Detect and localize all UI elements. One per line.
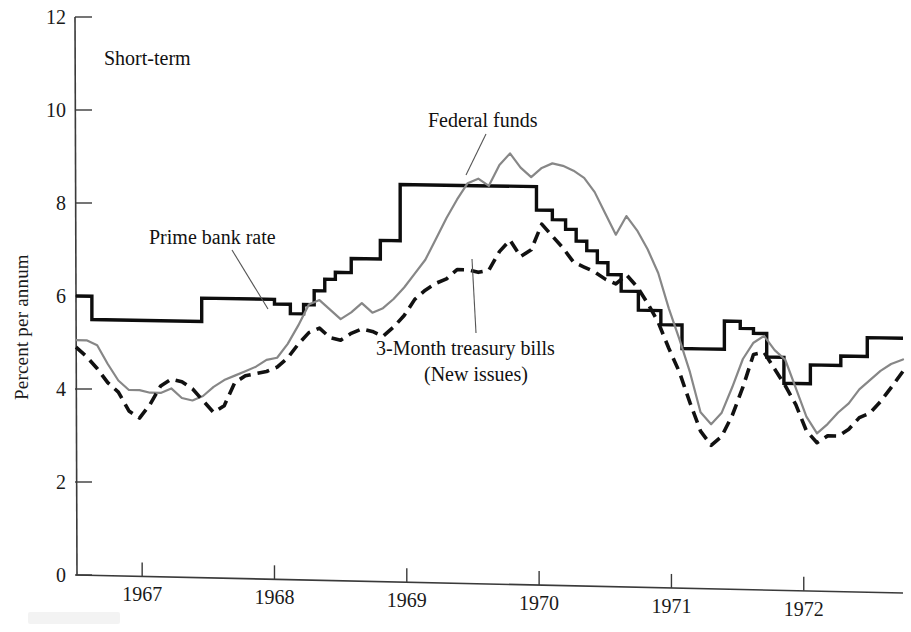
panel-label: Short-term bbox=[104, 47, 191, 69]
x-tick-label: 1972 bbox=[784, 598, 824, 620]
series-federal-funds bbox=[76, 153, 903, 433]
y-tick-label: 8 bbox=[56, 192, 66, 214]
x-tick-label: 1968 bbox=[254, 586, 294, 608]
y-tick-label: 10 bbox=[46, 99, 66, 121]
x-tick-label: 1970 bbox=[519, 592, 559, 614]
y-tick-label: 6 bbox=[56, 285, 66, 307]
chart-series-group bbox=[76, 153, 903, 445]
y-tick-label: 12 bbox=[46, 6, 66, 28]
annotation-federal-funds: Federal funds bbox=[428, 109, 538, 131]
x-tick-label: 1967 bbox=[122, 583, 162, 605]
y-tick-label: 0 bbox=[56, 564, 66, 586]
annotation-treasury-bills-line2: (New issues) bbox=[424, 363, 528, 386]
x-axis-ticks: 196719681969197019711972 bbox=[122, 562, 824, 619]
y-tick-label: 4 bbox=[56, 378, 66, 400]
page-artifact bbox=[28, 612, 120, 624]
series-treasury-bills bbox=[76, 224, 903, 445]
x-tick-label: 1969 bbox=[387, 589, 427, 611]
fedfunds-leader-line bbox=[466, 134, 486, 175]
x-tick-label: 1971 bbox=[651, 595, 691, 617]
interest-rate-line-chart: 024681012 196719681969197019711972 Perce… bbox=[0, 0, 911, 632]
chart-axes bbox=[75, 17, 903, 593]
annotation-prime-bank-rate: Prime bank rate bbox=[149, 226, 276, 248]
annotation-treasury-bills-line1: 3-Month treasury bills bbox=[376, 337, 555, 360]
chart-figure: 024681012 196719681969197019711972 Perce… bbox=[0, 0, 911, 632]
x-axis-line bbox=[76, 575, 903, 593]
y-axis-title: Percent per annum bbox=[11, 254, 32, 400]
y-tick-label: 2 bbox=[56, 471, 66, 493]
